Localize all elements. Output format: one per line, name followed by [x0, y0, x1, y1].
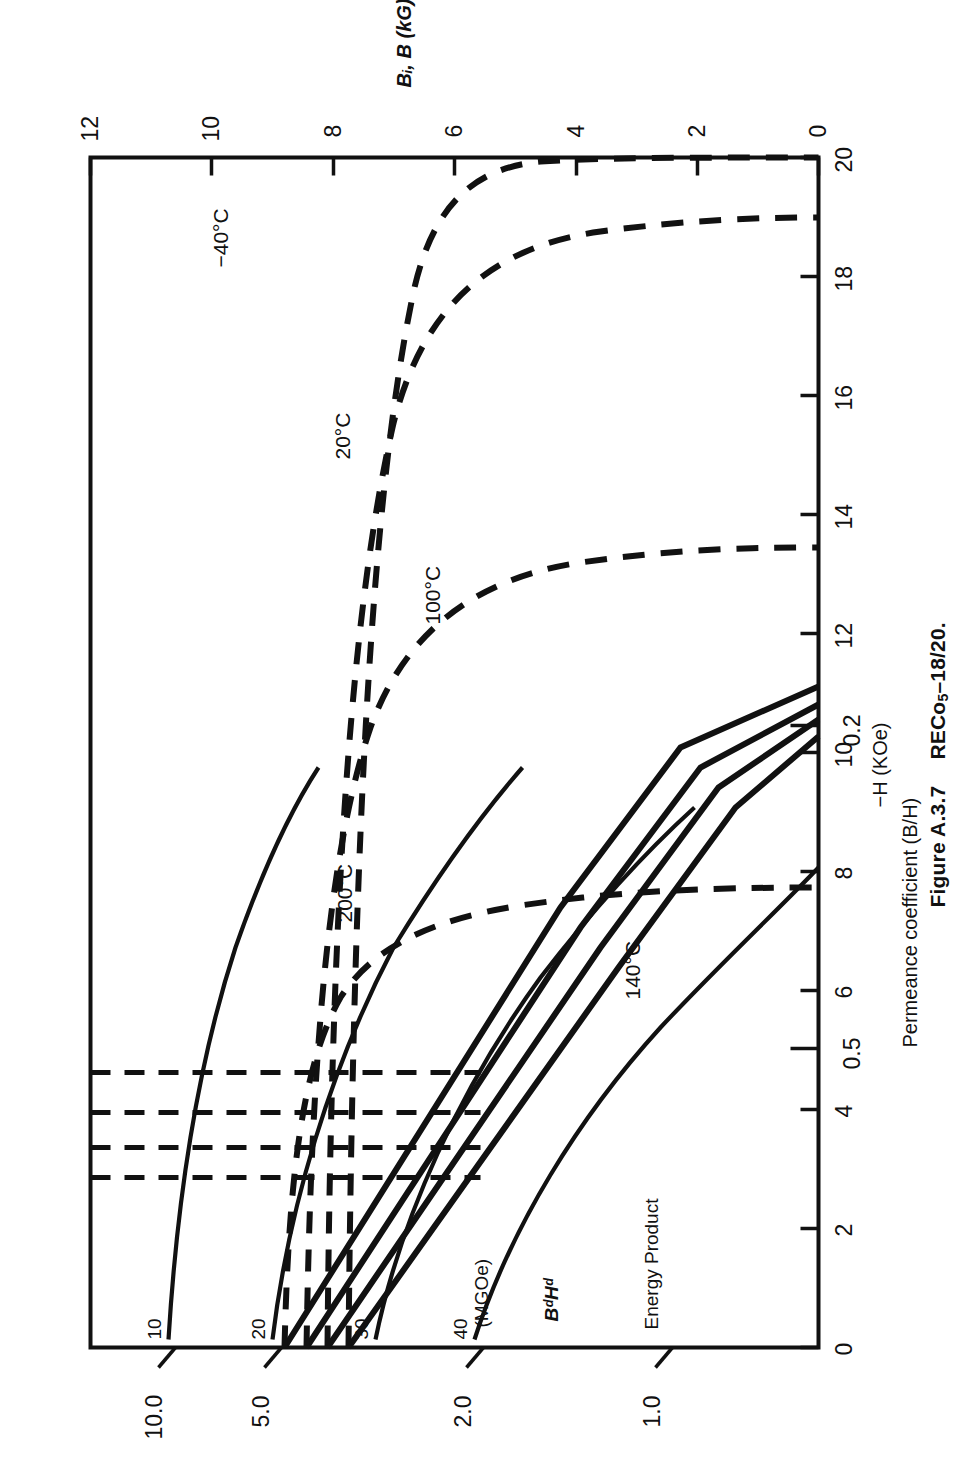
energy-product-symbol: BᵈHᵈ [540, 1278, 562, 1321]
permeance-tick-2: 2.0 [449, 1395, 476, 1427]
caption-suffix: –18/20. [925, 622, 948, 693]
energy-product-heading: Energy Product [640, 1198, 662, 1329]
x-tick-16: 16 [830, 384, 857, 410]
y-tick-6: 6 [440, 124, 467, 137]
x-tick-12: 12 [830, 622, 857, 648]
y-tick-12: 12 [76, 115, 103, 141]
rotated-figure-wrapper: 0 2 4 6 8 10 12 Bᵢ, B (kG) 0 2 4 6 8 10 … [0, 0, 959, 1467]
temp-label-m40: −40°C [208, 208, 232, 267]
x-tick-18: 18 [830, 265, 857, 291]
y-axis-title: Bᵢ, B (kG) [392, 0, 415, 87]
bi-intrinsic-dashed-curves [284, 157, 818, 1347]
x-tick-20: 20 [830, 146, 857, 172]
x-axis-title-text: −H (KOe) [868, 722, 890, 807]
y-tick-0: 0 [804, 124, 831, 137]
energy-product-units: (MGOe) [470, 1258, 492, 1327]
energy-product-label-40: 40 [449, 1318, 471, 1339]
permeance-tick-0-2: 0.2 [838, 714, 865, 746]
energy-product-label-30: 30 [350, 1318, 372, 1339]
permeance-tick-5: 5.0 [247, 1395, 274, 1427]
permeance-tick-10: 10.0 [140, 1394, 167, 1439]
x-tick-6: 6 [830, 985, 857, 998]
caption-material: RECo [925, 701, 948, 759]
temp-label-100: 100°C [420, 565, 444, 624]
figure-caption: Figure A.3.7 RECo5–18/20. [925, 622, 950, 907]
plot-canvas [0, 0, 959, 1467]
y-axis-title-text: Bᵢ, B (kG) [392, 0, 414, 87]
x-axis-title: −H (KOe) [868, 722, 891, 807]
axis-frame [90, 157, 818, 1347]
b-vs-h-solid-curves [284, 686, 818, 1347]
permeance-axis-title: Permeance coefficient (B/H) [898, 797, 921, 1047]
y-tick-4: 4 [562, 124, 589, 137]
x-tick-4: 4 [830, 1104, 857, 1117]
x-tick-2: 2 [830, 1223, 857, 1236]
permeance-tick-0-5: 0.5 [838, 1037, 865, 1069]
y-tick-8: 8 [319, 124, 346, 137]
x-tick-8: 8 [830, 866, 857, 879]
y-tick-2: 2 [683, 124, 710, 137]
caption-subscript: 5 [934, 693, 950, 701]
demagnetization-curve-figure: 0 2 4 6 8 10 12 Bᵢ, B (kG) 0 2 4 6 8 10 … [0, 0, 959, 1467]
temp-label-140: 140°C [620, 940, 644, 999]
y-tick-10: 10 [197, 115, 224, 141]
x-tick-14: 14 [830, 503, 857, 529]
energy-product-label-20: 20 [247, 1318, 269, 1339]
energy-product-label-10: 10 [143, 1318, 165, 1339]
caption-prefix: Figure A.3.7 [925, 785, 948, 907]
energy-product-curves [168, 767, 818, 1339]
temp-label-20: 20°C [330, 412, 354, 459]
permeance-ticks [158, 1347, 672, 1367]
energy-product-symbol-text: BᵈHᵈ [540, 1278, 561, 1321]
x-tick-0: 0 [830, 1342, 857, 1355]
temp-label-200: 200°C [332, 863, 356, 922]
permeance-axis-title-text: Permeance coefficient (B/H) [898, 797, 920, 1047]
permeance-tick-1: 1.0 [638, 1395, 665, 1427]
figure-page: 0 2 4 6 8 10 12 Bᵢ, B (kG) 0 2 4 6 8 10 … [0, 0, 959, 1467]
